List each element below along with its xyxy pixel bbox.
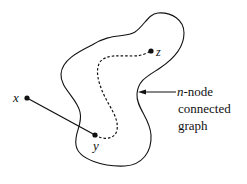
edge-x-to-y — [27, 98, 95, 135]
node-x — [24, 95, 29, 100]
dashed-path-y-to-z — [95, 51, 151, 138]
region-label-node: -node — [184, 84, 214, 99]
connected-graph-diagram: x y z n-node connected graph — [0, 0, 247, 184]
graph-region-outline — [61, 13, 184, 166]
node-z — [148, 48, 153, 53]
node-x-label: x — [12, 90, 19, 105]
region-label-line3: graph — [178, 118, 208, 133]
node-z-label: z — [155, 45, 161, 59]
node-y — [92, 132, 97, 137]
region-label-line2: connected — [178, 101, 231, 116]
node-y-label: y — [91, 138, 99, 153]
arrowhead-icon — [138, 90, 146, 95]
region-label-line1: n-node — [177, 84, 213, 99]
